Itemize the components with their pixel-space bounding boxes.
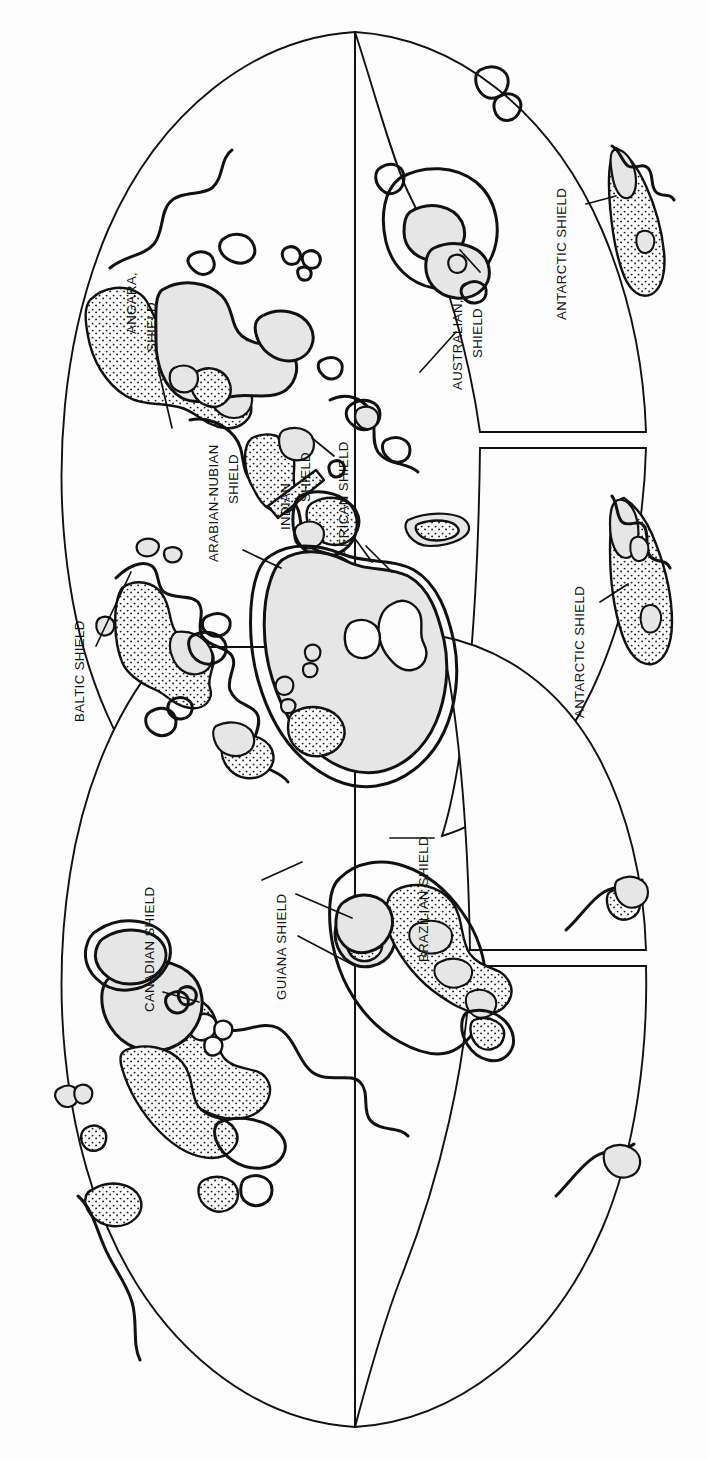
shield-hole-c bbox=[204, 1037, 222, 1056]
island-indian-ocean-c bbox=[276, 677, 294, 695]
map-figure: BALTIC SHIELD ANGARA, SHIELD CANADIAN SH… bbox=[0, 0, 708, 1459]
world-map-svg: BALTIC SHIELD ANGARA, SHIELD CANADIAN SH… bbox=[0, 0, 708, 1459]
platform-andes bbox=[336, 895, 393, 953]
shield-patagonia-strip bbox=[470, 1018, 504, 1049]
platform-patch-central-asia bbox=[170, 366, 198, 393]
label-guiana-shield: GUIANA SHIELD bbox=[274, 894, 289, 1000]
island-iceland bbox=[137, 539, 159, 557]
island-new-caledonia bbox=[448, 255, 466, 273]
island-indian-ocean-a bbox=[305, 645, 320, 661]
label-australian-shield-line2: SHIELD bbox=[470, 308, 485, 358]
shield-madagascar bbox=[416, 521, 459, 541]
label-australian-shield: AUSTRALIAN, bbox=[450, 299, 465, 390]
africa-congo-basin bbox=[345, 620, 380, 658]
label-indian-shield-line2: SHIELD bbox=[298, 452, 313, 502]
label-antarctic-shield-bottom: ANTARCTIC SHIELD bbox=[572, 586, 587, 718]
label-baltic-shield: BALTIC SHIELD bbox=[72, 620, 87, 722]
shield-africa-south bbox=[288, 707, 345, 756]
island-indian-ocean-d bbox=[281, 699, 295, 713]
label-african-shield: AFRICAN SHIELD bbox=[336, 441, 351, 556]
platform-africa-west-edge bbox=[615, 877, 648, 908]
island-borneo bbox=[355, 407, 378, 429]
label-angara-shield: ANGARA, bbox=[124, 272, 139, 334]
antarctic-south-inlier-b bbox=[641, 605, 661, 632]
label-canadian-shield: CANADIAN SHIELD bbox=[142, 887, 157, 1012]
label-angara-shield-line2: SHIELD bbox=[144, 302, 159, 352]
label-antarctic-shield-top: ANTARCTIC SHIELD bbox=[554, 188, 569, 320]
island-arctic-canada-b bbox=[74, 1085, 92, 1104]
label-indian-shield: INDIAN bbox=[278, 483, 293, 530]
island-small-europe-a bbox=[164, 547, 182, 562]
label-arabian-nubian-shield: ARABIAN-NUBIAN bbox=[206, 444, 221, 562]
label-brazilian-shield: BRAZILIAN SHIELD bbox=[416, 836, 431, 962]
shield-island-arctic-canada bbox=[81, 1126, 106, 1151]
island-caribbean bbox=[198, 1177, 238, 1212]
platform-africa-lower-gore bbox=[604, 1145, 640, 1177]
label-arabian-nubian-shield-line2: SHIELD bbox=[226, 454, 241, 504]
antarctic-east-inlier bbox=[636, 231, 654, 253]
brazil-hole-b bbox=[434, 959, 472, 988]
antarctic-south-inlier-a bbox=[630, 537, 648, 561]
island-indian-ocean-b bbox=[303, 663, 317, 677]
